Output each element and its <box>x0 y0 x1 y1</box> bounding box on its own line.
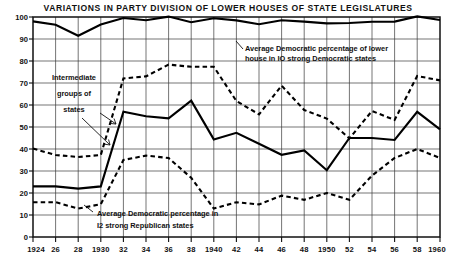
x-tick-1958: 58 <box>413 245 422 254</box>
y-tick-70: 70 <box>20 79 28 88</box>
x-tick-1928: 28 <box>74 245 83 254</box>
annotation-intermediate-line1: Intermediate <box>52 73 96 82</box>
annotation-democratic-states-line2: house in IO strong Democratic states <box>245 54 376 63</box>
x-tick-1924: 1924 <box>27 245 45 254</box>
y-tick-60: 60 <box>20 101 28 110</box>
x-tick-1950: 1950 <box>318 245 336 254</box>
x-tick-1932: 32 <box>119 245 128 254</box>
annotation-intermediate-line2: groups of <box>57 89 92 98</box>
y-tick-90: 90 <box>20 35 28 44</box>
y-tick-20: 20 <box>20 189 28 198</box>
x-tick-1926: 26 <box>51 245 60 254</box>
y-tick-40: 40 <box>20 145 28 154</box>
x-tick-1946: 46 <box>277 245 286 254</box>
annotation-democratic-states: Average Democratic percentage of lower h… <box>236 41 388 63</box>
x-tick-1938: 38 <box>187 245 196 254</box>
y-tick-0: 0 <box>24 233 28 242</box>
x-tick-1942: 42 <box>232 245 241 254</box>
x-tick-1940: 1940 <box>205 245 223 254</box>
annotation-republican-line2: I2 strong Republican states <box>97 221 194 230</box>
x-tick-1960: 1960 <box>428 245 446 254</box>
annotation-intermediate-line3: states <box>63 105 84 114</box>
y-tick-30: 30 <box>20 167 28 176</box>
y-tick-50: 50 <box>20 123 28 132</box>
x-tick-1934: 34 <box>142 245 151 254</box>
chart-title: VARIATIONS IN PARTY DIVISION OF LOWER HO… <box>44 3 413 13</box>
y-tick-80: 80 <box>20 57 28 66</box>
y-tick-100: 100 <box>15 13 28 22</box>
annotation-republican-line1: Average Democratic percentage in <box>97 209 219 218</box>
x-tick-1956: 56 <box>390 245 399 254</box>
x-tick-1930: 1930 <box>92 245 110 254</box>
x-tick-1944: 44 <box>255 245 264 254</box>
x-tick-1936: 36 <box>164 245 173 254</box>
line-chart-svg: VARIATIONS IN PARTY DIVISION OF LOWER HO… <box>0 0 453 258</box>
chart-figure: VARIATIONS IN PARTY DIVISION OF LOWER HO… <box>0 0 453 258</box>
annotation-democratic-states-line1: Average Democratic percentage of lower <box>245 44 388 53</box>
x-tick-1954: 54 <box>368 245 377 254</box>
y-tick-10: 10 <box>20 211 28 220</box>
x-axis-labels: 1924 26 28 1930 32 34 36 38 1940 42 44 4… <box>27 245 446 254</box>
x-tick-1948: 48 <box>300 245 309 254</box>
x-tick-1952: 52 <box>345 245 354 254</box>
y-axis-labels: 100 90 80 70 60 50 40 30 20 10 0 <box>15 13 28 242</box>
